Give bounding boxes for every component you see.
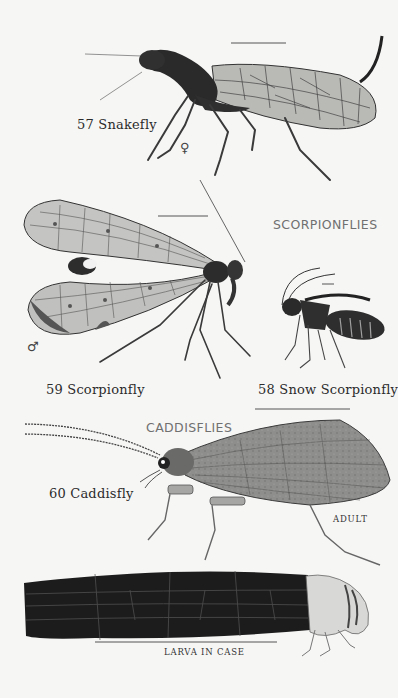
scorpionfly-illustration [24,180,250,378]
male-symbol-icon: ♂ [27,339,39,354]
snow-scorpionfly-label: 58 Snow Scorpionfly [258,382,398,397]
snakefly-label: 57 Snakefly [77,117,157,132]
caddisfly-label: 60 Caddisfly [49,486,134,501]
caddisfly-larva-case-illustration [24,571,369,656]
scorpionfly-label: 59 Scorpionfly [46,382,145,397]
snow-scorpionfly-illustration [282,268,387,368]
section-heading-caddisflies: CADDISFLIES [146,420,232,435]
female-symbol-icon: ♀ [180,140,190,155]
snakefly-illustration [85,36,382,180]
adult-stage-label: ADULT [333,514,368,524]
larva-stage-label: LARVA IN CASE [164,647,245,657]
section-heading-scorpionflies: SCORPIONFLIES [273,217,377,232]
